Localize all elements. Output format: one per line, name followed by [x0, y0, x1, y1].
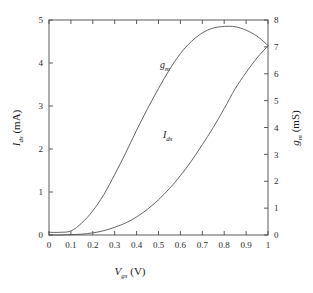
y-tick-label-right: 7 — [274, 42, 279, 52]
y-axis-right-title-unit: (mS) — [289, 110, 302, 135]
x-tick-label: 0.1 — [65, 240, 76, 250]
y-tick-label-right: 6 — [274, 69, 279, 79]
figure-container: 00.10.20.30.40.50.60.70.80.91 012345 012… — [0, 0, 313, 293]
y-axis-right-tick-labels: 012345678 — [274, 15, 279, 240]
y-axis-left-title: Ids (mA) — [10, 109, 25, 147]
curve-ids — [49, 46, 268, 235]
y-tick-label-left: 0 — [39, 230, 44, 240]
annotation-ids-sub: ds — [166, 135, 173, 143]
y-axis-right-title: gm (mS) — [289, 110, 304, 146]
y-tick-label-right: 4 — [274, 123, 279, 133]
y-axis-left-title-unit: (mA) — [10, 109, 23, 136]
y-tick-label-right: 3 — [274, 150, 279, 160]
curve-gm — [49, 26, 268, 232]
x-tick-label: 1 — [266, 240, 271, 250]
x-axis-tick-labels: 00.10.20.30.40.50.60.70.80.91 — [47, 240, 271, 250]
plot-frame — [49, 20, 268, 235]
y-tick-label-left: 4 — [39, 58, 44, 68]
annotation-gm: gm — [160, 59, 170, 73]
y-axis-left-tick-labels: 012345 — [39, 15, 44, 240]
x-tick-label: 0.5 — [153, 240, 165, 250]
data-series-group — [49, 26, 268, 235]
x-tick-label: 0.8 — [219, 240, 231, 250]
y-tick-label-right: 5 — [274, 96, 279, 106]
y-tick-label-left: 2 — [39, 144, 44, 154]
x-tick-label: 0.3 — [109, 240, 121, 250]
x-axis-ticks — [49, 20, 268, 235]
y-tick-label-left: 3 — [39, 101, 44, 111]
y-tick-label-left: 1 — [39, 187, 44, 197]
x-tick-label: 0.4 — [131, 240, 143, 250]
x-tick-label: 0.9 — [240, 240, 252, 250]
y-tick-label-right: 2 — [274, 176, 279, 186]
x-axis-title-unit: (V) — [127, 265, 145, 278]
annotation-ids: Ids — [162, 129, 173, 143]
y-tick-label-right: 0 — [274, 230, 279, 240]
annotation-gm-sub: m — [165, 65, 170, 73]
y-tick-label-left: 5 — [39, 15, 44, 25]
y-axis-right-ticks — [264, 20, 268, 235]
chart-canvas: 00.10.20.30.40.50.60.70.80.91 012345 012… — [0, 0, 313, 293]
x-tick-label: 0.7 — [197, 240, 209, 250]
y-tick-label-right: 8 — [274, 15, 279, 25]
x-tick-label: 0.2 — [87, 240, 98, 250]
x-axis-title: Vgs (V) — [115, 265, 146, 280]
x-tick-label: 0 — [47, 240, 52, 250]
y-tick-label-right: 1 — [274, 203, 279, 213]
x-tick-label: 0.6 — [175, 240, 187, 250]
y-axis-left-ticks — [49, 20, 53, 235]
